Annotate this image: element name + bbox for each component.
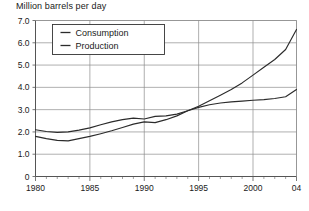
legend-label-consumption: Consumption <box>76 28 129 38</box>
x-tick-label: 1995 <box>189 183 208 193</box>
x-tick-label: 1990 <box>135 183 154 193</box>
y-tick-label: 6.0 <box>18 38 30 48</box>
y-tick-label: 4.0 <box>18 82 30 92</box>
chart-legend: ConsumptionProduction <box>53 25 165 55</box>
y-tick-label: 7.0 <box>18 16 30 26</box>
legend-label-production: Production <box>76 41 119 51</box>
x-tick-label: 2000 <box>244 183 263 193</box>
x-tick-label: 1985 <box>80 183 99 193</box>
y-tick-label: 1.0 <box>18 149 30 159</box>
series-line-production <box>36 90 297 133</box>
y-tick-label: 0 <box>25 172 30 182</box>
chart-container: Million barrels per day 01.02.03.04.05.0… <box>0 0 309 211</box>
chart-plot: 01.02.03.04.05.06.07.0 19801985199019952… <box>0 0 309 211</box>
x-axis-tick-labels: 1980198519901995200004 <box>26 183 301 193</box>
y-tick-label: 5.0 <box>18 60 30 70</box>
y-tick-label: 2.0 <box>18 127 30 137</box>
y-tick-label: 3.0 <box>18 105 30 115</box>
y-axis-tick-labels: 01.02.03.04.05.06.07.0 <box>18 16 30 182</box>
x-tick-label: 1980 <box>26 183 45 193</box>
x-tick-label: 04 <box>292 183 302 193</box>
